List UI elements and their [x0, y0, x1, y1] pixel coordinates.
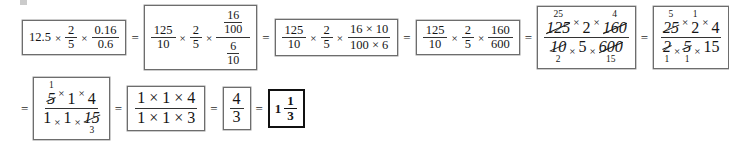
denominator: 3 — [230, 109, 244, 126]
denominator-product: 10 2 × 5 × 600 15 — [547, 38, 625, 65]
step-5-cancellation-fraction: 25 125 × 2 × 4 160 10 — [544, 10, 628, 65]
struck-value: 125 — [546, 20, 570, 36]
denominator: 5 — [462, 38, 474, 51]
denominator: 10 — [426, 38, 445, 51]
plain-value: 4 — [88, 91, 96, 107]
struck-value: 600 — [599, 39, 623, 55]
factor: 2 1 — [663, 39, 671, 65]
step-6-cancellation-fraction: 5 25 × 1 2 × 4 2 — [660, 10, 722, 65]
numerator-product: 25 125 × 2 × 4 160 — [544, 10, 628, 38]
step-2-fraction-2: 2 5 — [190, 24, 202, 51]
numerator: 2 — [65, 24, 77, 38]
solution-row-1: 12.5 × 2 5 × 0.16 0.6 = 125 10 — [22, 5, 729, 70]
step-2-expression: 125 10 × 2 5 × 16 100 — [150, 9, 251, 66]
times-icon: × — [307, 32, 319, 44]
numerator-product: 5 25 × 1 2 × 4 — [661, 10, 721, 38]
times-icon: × — [566, 46, 578, 58]
factor: 1 — [64, 110, 72, 136]
step-8-box: 1 × 1 × 4 1 × 1 × 3 — [127, 86, 205, 131]
times-icon: × — [679, 17, 691, 29]
numerator: 1 — [284, 94, 297, 109]
struck-value: 5 — [683, 39, 691, 55]
times-icon: × — [78, 32, 90, 44]
numerator: 2 — [190, 24, 202, 38]
factor: 25 125 — [546, 10, 570, 36]
numerator: 6 — [227, 40, 239, 54]
equals-sign: = — [398, 31, 415, 44]
struck-value: 10 — [550, 39, 566, 55]
factor: 1 — [68, 81, 76, 107]
denominator-product: 2 1 × 5 1 × 15 — [660, 38, 722, 65]
step-4-box: 125 10 × 2 5 × 160 600 — [416, 20, 520, 55]
denominator: 600 — [488, 38, 513, 51]
plain-value: 15 — [703, 39, 719, 55]
plain-value: 2 — [582, 20, 590, 36]
plain-value: 4 — [711, 20, 719, 36]
step-9-box: 4 3 — [223, 87, 251, 130]
equals-sign: = — [205, 102, 222, 115]
plain-value: 2 — [691, 20, 699, 36]
complex-denominator: 6 10 — [220, 38, 246, 66]
factor: 10 2 — [550, 39, 566, 65]
denominator: 1 × 1 × 3 — [134, 109, 198, 127]
step-2-box: 125 10 × 2 5 × 16 100 — [144, 5, 257, 70]
plain-value: 5 — [578, 39, 586, 55]
denominator: 10 — [285, 38, 304, 51]
times-icon: × — [72, 117, 84, 129]
equals-sign: = — [16, 102, 33, 115]
cancel-result-below: 15 — [606, 55, 616, 65]
step-7-box: 1 5 × 1 × 4 1 — [33, 77, 109, 140]
step-3-fraction-1: 125 10 — [282, 24, 307, 51]
factor: 4 — [88, 81, 96, 107]
step-1-expression: 12.5 × 2 5 × 0.16 0.6 — [28, 24, 120, 51]
equals-sign: = — [636, 31, 653, 44]
struck-value: 5 — [47, 91, 55, 107]
step-1-fraction-1: 2 5 — [65, 24, 77, 51]
plain-value: 1 — [68, 91, 76, 107]
step-1-fraction-2: 0.16 0.6 — [92, 24, 120, 51]
struck-value: 2 — [663, 39, 671, 55]
times-icon: × — [586, 46, 598, 58]
numerator: 160 — [488, 24, 513, 38]
inner-fraction-top: 16 100 — [221, 9, 245, 35]
equals-sign: = — [126, 31, 143, 44]
plain-value: 1 — [43, 110, 51, 126]
numerator: 2 — [321, 24, 333, 38]
times-icon: × — [51, 117, 63, 129]
step-1-box: 12.5 × 2 5 × 0.16 0.6 — [22, 20, 126, 55]
times-icon: × — [699, 17, 711, 29]
numerator-product: 1 5 × 1 × 4 — [45, 81, 97, 109]
numerator: 16 × 10 — [348, 23, 390, 38]
times-icon: × — [52, 32, 64, 44]
step-6-box: 5 25 × 1 2 × 4 2 — [653, 6, 729, 69]
numerator: 1 × 1 × 4 — [135, 90, 197, 109]
step-8-fraction: 1 × 1 × 4 1 × 1 × 3 — [134, 90, 198, 127]
numerator: 125 — [282, 24, 307, 38]
denominator: 5 — [190, 38, 202, 51]
struck-value: 160 — [603, 20, 627, 36]
mixed-number: 1 1 3 — [275, 94, 298, 122]
factor: 15 3 — [84, 110, 100, 136]
step-7-cancellation-fraction: 1 5 × 1 × 4 1 — [40, 81, 102, 136]
denominator: 10 — [224, 54, 242, 67]
denominator: 3 — [284, 109, 297, 123]
plain-value: 1 — [64, 110, 72, 126]
numerator: 0.16 — [92, 24, 120, 38]
numerator: 4 — [230, 91, 244, 109]
final-answer-box: 1 1 3 — [268, 89, 305, 127]
factor: 4 — [711, 10, 719, 36]
factor: 1 — [43, 110, 51, 136]
times-icon: × — [334, 32, 346, 44]
whole-part: 1 — [275, 101, 284, 117]
denominator: 0.6 — [95, 38, 117, 51]
equals-sign: = — [257, 31, 274, 44]
cancel-result-below: 3 — [89, 126, 94, 136]
times-icon: × — [691, 46, 703, 58]
step-2-complex-fraction: 16 100 6 10 — [216, 9, 250, 66]
numerator: 125 — [151, 24, 176, 38]
step-1-scalar: 12.5 — [28, 30, 52, 45]
step-4-fraction-2: 2 5 — [462, 24, 474, 51]
factor: 5 — [578, 39, 586, 65]
solution-row-2: = 1 5 × 1 × 4 — [16, 77, 305, 140]
